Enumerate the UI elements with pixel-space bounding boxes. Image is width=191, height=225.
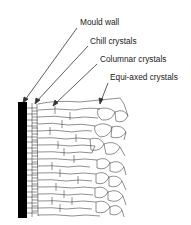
crystal-structure xyxy=(27,98,128,217)
arrow-equi-axed-crystals xyxy=(101,83,108,101)
solidification-diagram xyxy=(0,0,191,225)
columnar-zone xyxy=(38,98,120,216)
label-chill-crystals: Chill crystals xyxy=(90,36,137,46)
arrow-columnar-crystals xyxy=(56,64,97,103)
arrow-mould-wall xyxy=(25,28,77,100)
equi-axed-zone xyxy=(90,98,128,217)
label-columnar-crystals: Columnar crystals xyxy=(100,54,166,64)
chill-zone xyxy=(27,103,38,217)
label-equi-axed-crystals: Equi-axed crystals xyxy=(110,72,178,82)
mould-wall xyxy=(18,102,27,218)
label-mould-wall: Mould wall xyxy=(80,17,119,27)
arrow-chill-crystals xyxy=(37,46,88,101)
